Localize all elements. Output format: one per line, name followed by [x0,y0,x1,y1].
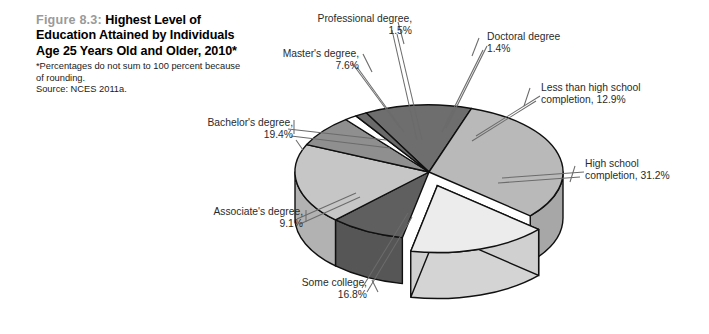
slice-label-masters-degree: Master's degree, 7.6% [254,48,359,73]
leader-tick [472,38,479,56]
leader-tick [372,280,378,292]
slice-label-doctoral-degree: Doctoral degree 1.4% [487,31,612,56]
figure-container: Figure 8.3: Highest Level of Education A… [0,0,709,334]
slice-label-associates-degree: Associate's degree, 9.1% [186,206,303,231]
leader-tick [570,166,575,182]
slice-label-bachelors-degree: Bachelor's degree, 19.4% [178,117,293,142]
slice-label-high-school: High school completion, 31.2% [585,158,703,183]
slice-label-professional-degree: Professional degree, 1.5% [292,13,412,38]
slice-label-less-than-high-school: Less than high school completion, 12.9% [541,82,681,107]
leader-tick [363,54,372,72]
leader-tick [296,140,303,150]
slice-label-some-college: Some college, 16.8% [262,277,367,302]
